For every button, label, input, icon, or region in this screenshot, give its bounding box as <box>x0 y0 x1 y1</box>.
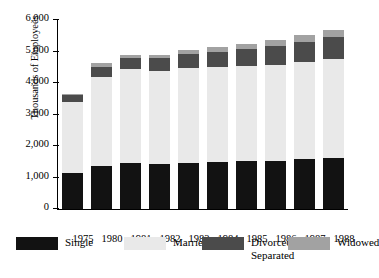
bar-segment <box>120 58 141 69</box>
bar-segment <box>294 42 315 62</box>
bar-segment <box>236 44 257 49</box>
legend-swatch <box>288 237 330 250</box>
bar-segment <box>62 102 83 174</box>
bar-segment <box>178 54 199 68</box>
bar-segment <box>265 65 286 161</box>
legend-label: Widowed <box>337 236 379 249</box>
bar-segment <box>265 46 286 65</box>
bar-segment <box>149 58 170 70</box>
x-axis-line <box>57 209 348 210</box>
bar-segment <box>62 95 83 102</box>
bar-segment <box>120 163 141 209</box>
bar-segment <box>323 59 344 158</box>
bar-segment <box>236 161 257 209</box>
bar-segment <box>265 40 286 46</box>
bars-layer <box>58 20 348 209</box>
y-tick-label: 6,000 <box>25 12 49 23</box>
bar-segment <box>207 67 228 162</box>
bar-segment <box>178 50 199 54</box>
bar-segment <box>120 69 141 163</box>
bar-segment <box>149 164 170 209</box>
y-tick-label: 0 <box>44 201 49 212</box>
bar-segment <box>265 161 286 209</box>
legend-item: Single <box>16 236 93 250</box>
y-tick-label: 4,000 <box>25 75 49 86</box>
legend-swatch <box>202 237 244 250</box>
legend-label: Single <box>65 236 93 249</box>
bar-segment <box>294 62 315 159</box>
bar-segment <box>91 63 112 66</box>
bar-segment <box>323 37 344 59</box>
bar-segment <box>236 49 257 66</box>
legend-item: Divorced/ Separated <box>202 236 295 261</box>
bar-segment <box>294 159 315 209</box>
legend-swatch <box>124 237 166 250</box>
legend-swatch <box>16 237 58 250</box>
bar-segment <box>294 35 315 42</box>
chart-legend: SingleMarriedDivorced/ SeparatedWidowed <box>16 236 346 270</box>
plot-area: 01,0002,0003,0004,0005,0006,000 19751980… <box>58 20 348 209</box>
bar-segment <box>323 30 344 37</box>
bar-segment <box>178 68 199 163</box>
bar-segment <box>149 71 170 164</box>
legend-item: Widowed <box>288 236 379 250</box>
bar-segment <box>207 47 228 52</box>
y-tick-label: 1,000 <box>25 170 49 181</box>
bar-segment <box>207 52 228 67</box>
y-tick-label: 5,000 <box>25 44 49 55</box>
legend-item: Married <box>124 236 208 250</box>
bar-segment <box>120 55 141 58</box>
bar-segment <box>178 163 199 209</box>
y-tick-label: 3,000 <box>25 107 49 118</box>
y-tick-label: 2,000 <box>25 138 49 149</box>
bar-segment <box>207 162 228 209</box>
bar-segment <box>91 166 112 209</box>
bar-segment <box>323 158 344 209</box>
bar-segment <box>91 77 112 165</box>
bar-segment <box>149 55 170 59</box>
bar-segment <box>62 94 83 95</box>
bar-segment <box>91 67 112 77</box>
bar-segment <box>236 66 257 162</box>
bar-segment <box>62 173 83 209</box>
